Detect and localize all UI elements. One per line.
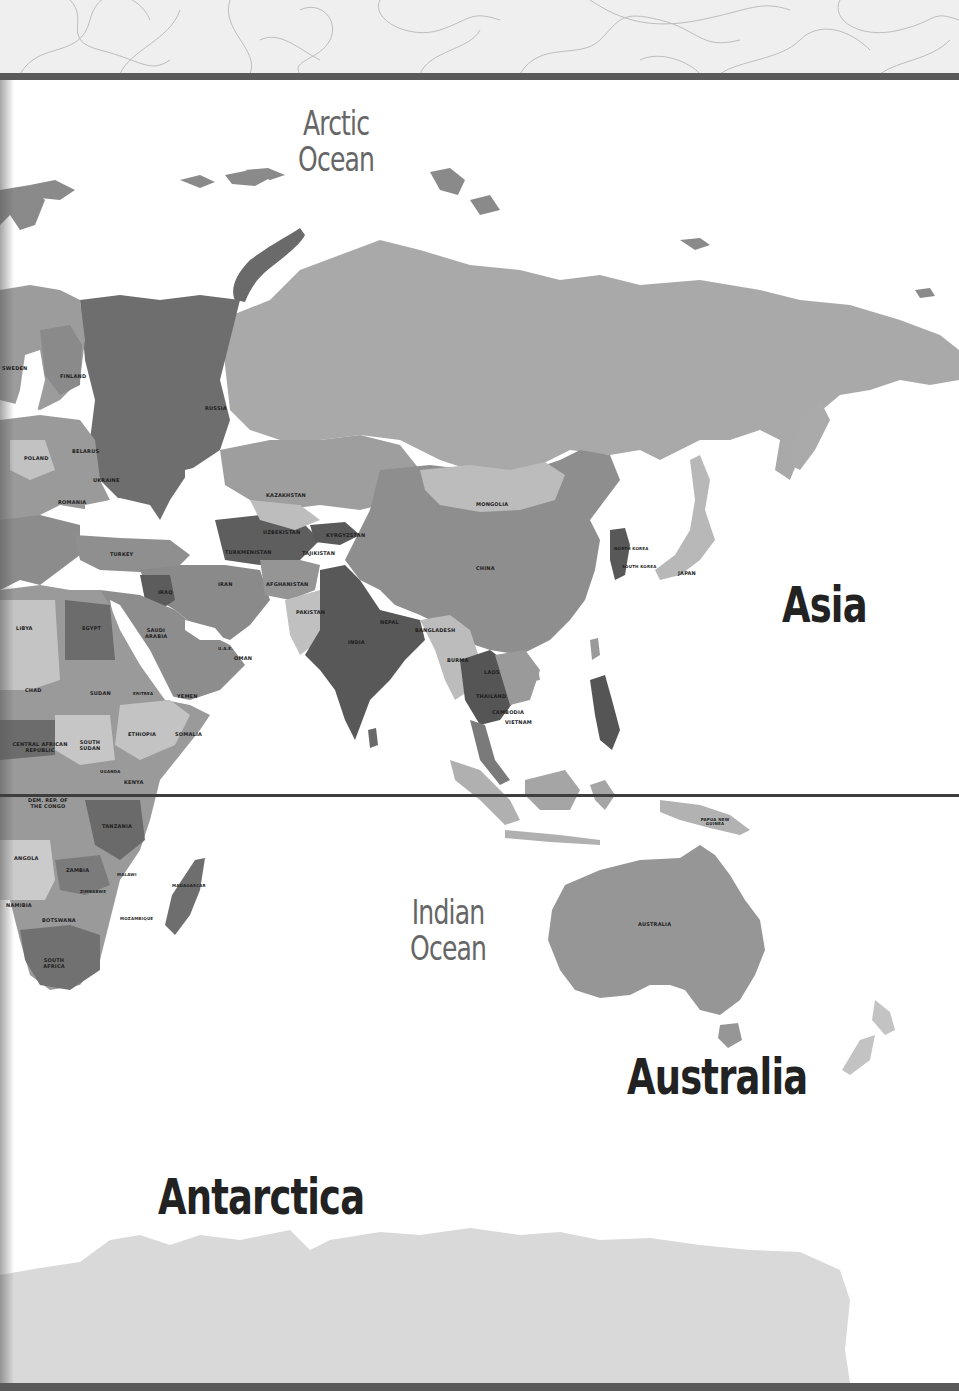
arctic-ocean-line2: Ocean	[298, 142, 374, 178]
country-label-tanzania: TANZANIA	[102, 824, 132, 830]
country-label-south-africa: SOUTH AFRICA	[42, 958, 66, 969]
country-label-belarus: BELARUS	[72, 449, 99, 455]
country-label-somalia: SOMALIA	[175, 732, 202, 738]
country-label-ethiopia: ETHIOPIA	[128, 732, 156, 738]
country-label-mongolia: MONGOLIA	[476, 502, 508, 508]
country-label-afghanistan: AFGHANISTAN	[266, 582, 308, 588]
country-label-zimbabwe: ZIMBABWE	[80, 890, 106, 894]
country-label-saudi-arabia: SAUDI ARABIA	[145, 628, 167, 639]
country-label-egypt: EGYPT	[82, 626, 101, 632]
country-label-russia: RUSSIA	[205, 406, 227, 412]
country-label-sweden: SWEDEN	[2, 366, 27, 372]
topographic-header-band	[0, 0, 959, 74]
arctic-ocean-line1: Arctic	[298, 106, 374, 142]
indian-ocean-line2: Ocean	[410, 931, 486, 967]
caspian-sea	[185, 465, 215, 560]
tasmania	[718, 1023, 742, 1048]
country-label-burma: BURMA	[447, 658, 469, 664]
country-label-laos: LAOS	[484, 670, 500, 676]
country-label-zambia: ZAMBIA	[66, 868, 89, 874]
country-label-sudan: SUDAN	[90, 691, 111, 697]
country-label-iraq: IRAQ	[158, 590, 173, 596]
antarctica-label: Antarctica	[158, 1172, 364, 1222]
country-label-poland: POLAND	[24, 456, 49, 462]
country-label-angola: ANGOLA	[14, 856, 39, 862]
japan-shape	[655, 455, 715, 580]
indian-ocean-label: Indian Ocean	[410, 895, 486, 966]
australia-shape	[548, 845, 765, 1015]
country-label-japan: JAPAN	[678, 571, 696, 577]
country-label-kenya: KENYA	[124, 780, 144, 786]
country-label-uganda: UGANDA	[100, 770, 121, 774]
madagascar-shape	[165, 858, 205, 935]
antarctica-shape	[0, 1228, 850, 1383]
country-label-chad: CHAD	[25, 688, 42, 694]
country-label-central-african-republic: CENTRAL AFRICAN REPUBLIC	[12, 742, 68, 753]
country-label-pakistan: PAKISTAN	[296, 610, 325, 616]
country-label-cambodia: CAMBODIA	[492, 710, 524, 716]
asia-label: Asia	[782, 580, 867, 630]
country-label-eritrea: ERITREA	[133, 692, 153, 696]
country-label-vietnam: VIETNAM	[505, 720, 532, 726]
country-label-tajikistan: TAJIKISTAN	[302, 551, 335, 557]
country-label-libya: LIBYA	[16, 626, 33, 632]
philippines-shape	[590, 675, 620, 750]
country-label-ukraine: UKRAINE	[93, 478, 120, 484]
header-divider	[0, 73, 959, 80]
country-label-oman: OMAN	[234, 656, 252, 662]
indian-ocean-line1: Indian	[410, 895, 486, 931]
arctic-ocean-label: Arctic Ocean	[298, 106, 374, 177]
country-label-bangladesh: BANGLADESH	[415, 628, 455, 634]
country-label-yemen: YEMEN	[177, 694, 198, 700]
country-label-india: INDIA	[348, 640, 365, 646]
sumatra	[450, 760, 520, 825]
country-label-thailand: THAILAND	[476, 694, 506, 700]
country-label-south-korea: SOUTH KOREA	[622, 565, 656, 569]
country-label-botswana: BOTSWANA	[42, 918, 76, 924]
contour-pattern	[0, 0, 959, 74]
country-label-north-korea: NORTH KOREA	[614, 547, 649, 551]
footer-divider	[0, 1383, 959, 1391]
country-label-turkmenistan: TURKMENISTAN	[225, 550, 272, 556]
country-label-romania: ROMANIA	[58, 500, 86, 506]
korea-shape	[610, 528, 630, 580]
borneo	[525, 770, 580, 810]
country-label-kyrgyzstan: KYRGYZSTAN	[326, 533, 365, 539]
country-label-papua-new-guinea: PAPUA NEW GUINEA	[700, 818, 730, 827]
country-label-kazakhstan: KAZAKHSTAN	[266, 493, 306, 499]
new-zealand	[842, 1035, 875, 1075]
country-label-mozambique: MOZAMBIQUE	[120, 917, 153, 921]
equator-line	[0, 794, 959, 797]
country-label-australia: AUSTRALIA	[638, 922, 671, 928]
country-label-dem-rep-congo: DEM. REP. OF THE CONGO	[26, 798, 70, 809]
country-label-nepal: NEPAL	[380, 620, 399, 626]
country-label-malawi: MALAWI	[117, 873, 137, 877]
country-label-namibia: NAMIBIA	[6, 903, 32, 909]
country-label-china: CHINA	[476, 566, 495, 572]
country-label-uae: U.A.E.	[218, 647, 233, 651]
country-label-iran: IRAN	[218, 582, 233, 588]
australia-label: Australia	[627, 1052, 807, 1102]
country-label-madagascar: MADAGASCAR	[172, 884, 206, 888]
country-label-finland: FINLAND	[60, 374, 86, 380]
country-label-uzbekistan: UZBEKISTAN	[263, 530, 300, 536]
country-label-turkey: TURKEY	[110, 552, 133, 558]
java-chain	[505, 830, 600, 845]
page-binding-shadow	[0, 80, 14, 1383]
country-label-south-sudan: SOUTH SUDAN	[78, 740, 102, 751]
